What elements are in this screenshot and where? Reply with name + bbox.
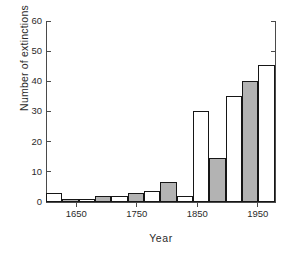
- bar-1681-1708: [95, 196, 111, 202]
- bar-1627-1654: [62, 199, 78, 202]
- y-tick-label-0: 0: [14, 197, 42, 207]
- x-tick-1950: [257, 203, 258, 207]
- x-tick-1850: [197, 203, 198, 207]
- y-tick-label-10: 10: [14, 167, 42, 177]
- bar-1924-1951: [242, 81, 258, 202]
- bar-1654-1681: [79, 199, 95, 202]
- x-tick-1650: [76, 203, 77, 207]
- y-tick-40: [47, 81, 51, 82]
- y-tick-10: [47, 171, 51, 172]
- bar-1897-1924: [226, 96, 242, 201]
- x-tick-1750: [136, 203, 137, 207]
- y-tick-label-40: 40: [14, 76, 42, 86]
- x-tick-label-1650: 1650: [54, 208, 98, 219]
- left-axis-spine: [46, 21, 47, 203]
- x-tick-label-1950: 1950: [236, 208, 280, 219]
- bar-1870-1897: [209, 158, 225, 202]
- x-tick-label-1750: 1750: [115, 208, 159, 219]
- y-tick-30: [47, 111, 51, 112]
- right-axis-spine: [275, 21, 276, 203]
- top-tick-right: [275, 21, 276, 25]
- y-tick-label-60: 60: [14, 16, 42, 26]
- bar-1735-1762: [128, 193, 144, 202]
- bar-1843-1870: [193, 111, 209, 201]
- x-tick-label-1850: 1850: [175, 208, 219, 219]
- y-tick-20: [47, 141, 51, 142]
- y-tick-60: [47, 21, 51, 22]
- top-tick-left: [46, 21, 47, 25]
- y-tick-label-50: 50: [14, 46, 42, 56]
- bar-1708-1735: [111, 196, 127, 202]
- bar-1951-1978: [258, 65, 274, 202]
- y-tick-label-30: 30: [14, 106, 42, 116]
- y-tick-right-50: [271, 51, 275, 52]
- bar-1816-1843: [177, 196, 193, 202]
- y-tick-label-20: 20: [14, 137, 42, 147]
- bar-1789-1816: [160, 182, 176, 202]
- y-tick-50: [47, 51, 51, 52]
- x-axis-title: Year: [46, 232, 276, 244]
- bar-1762-1789: [144, 191, 160, 202]
- bottom-axis-spine: [46, 202, 276, 203]
- extinctions-histogram: Number of extinctions Year 0102030405060…: [0, 0, 291, 256]
- plot-area: 0102030405060 1650175018501950: [46, 21, 276, 203]
- bar-1600-1627: [46, 193, 62, 202]
